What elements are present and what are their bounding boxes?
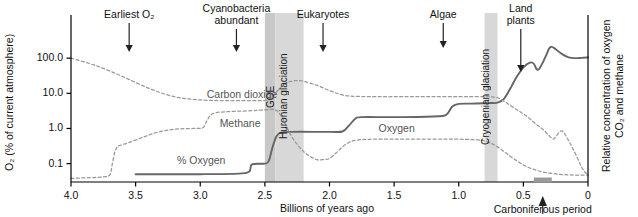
arrow-head-earliest-oxygen <box>126 45 133 52</box>
annotation-eukaryotes: Eukaryotes <box>268 9 378 21</box>
x-tick-label-7: 0.5 <box>509 189 537 201</box>
x-tick-label-3: 2.5 <box>251 189 279 201</box>
x-tick-label-5: 1.5 <box>380 189 408 201</box>
y-axis-left-title: O₂ (% of current atmosphere) <box>3 12 16 192</box>
chart-figure: 100.010.01.00.14.03.53.02.52.01.51.00.50… <box>0 0 638 217</box>
band-label-huronian-glaciation: Huronian glaciation <box>278 15 300 178</box>
annotation-line: Earliest O₂ <box>74 9 184 21</box>
annotation-land-plants: Landplants <box>466 3 576 26</box>
x-tick-label-4: 2.0 <box>316 189 344 201</box>
arrow-head-cyanobacteria-abundant <box>233 45 240 52</box>
x-tick-label-0: 4.0 <box>57 189 85 201</box>
band-label-cryogenian-glaciation: Cryogenian glaciation <box>480 15 502 178</box>
carboniferous-period-label: Carboniferous period <box>473 204 613 216</box>
annotation-line: plants <box>466 15 576 27</box>
arrow-head-eukaryotes <box>319 45 326 52</box>
annotation-line: Land <box>466 3 576 15</box>
y-tick-label-3: 0.1 <box>48 157 63 169</box>
y-tick-label-2: 1.0 <box>48 121 63 133</box>
series-methane <box>71 109 588 178</box>
y-tick-label-1: 10.0 <box>43 86 63 98</box>
x-tick-label-8: 0 <box>574 189 602 201</box>
methane-label: Methane <box>220 117 261 129</box>
x-tick-label-2: 3.0 <box>186 189 214 201</box>
carbon-dioxide-label: Carbon dioxide <box>207 88 278 100</box>
y-axis-right-title: Relative concentration of oxygen CO₂ and… <box>600 8 634 183</box>
chart-svg <box>0 0 638 217</box>
annotation-line: Eukaryotes <box>268 9 378 21</box>
annotation-earliest-oxygen: Earliest O₂ <box>74 9 184 21</box>
arrow-head-algae <box>440 41 447 48</box>
oxygen-label: Oxygen <box>379 122 415 134</box>
y-tick-label-0: 100.0 <box>37 51 63 63</box>
x-tick-label-6: 1.0 <box>445 189 473 201</box>
carboniferous-marker <box>534 178 552 183</box>
percent-oxygen-label: % Oxygen <box>177 154 225 166</box>
x-axis-title: Billions of years ago <box>280 202 374 214</box>
x-tick-label-1: 3.5 <box>122 189 150 201</box>
